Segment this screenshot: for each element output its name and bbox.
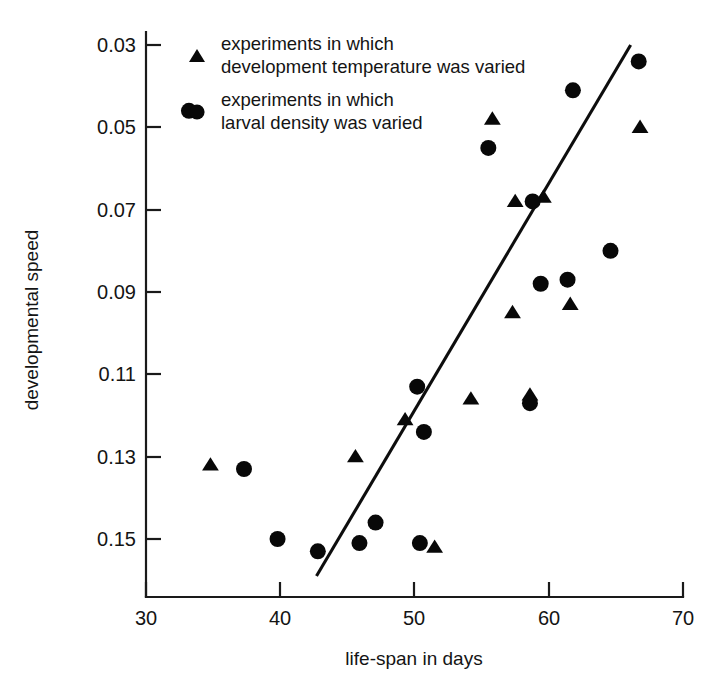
data-point-triangle [632,120,649,133]
y-tick-label: 0.11 [99,363,136,385]
series-temperature [202,111,648,552]
triangle-marker-icon [189,49,205,62]
data-point-triangle [347,449,364,462]
data-point-circle [412,535,428,551]
legend-entry-temperature: experiments in which development tempera… [189,33,525,77]
data-point-circle [560,272,576,288]
data-point-circle [533,276,549,292]
x-tick-label: 60 [538,607,560,629]
data-point-circle [310,543,326,559]
y-tick-label: 0.03 [97,34,136,56]
data-point-triangle [462,391,479,404]
legend-label-line1: experiments in which [221,89,394,110]
legend-label-line1: experiments in which [221,33,394,54]
data-point-circle [416,424,432,440]
y-tick-label: 0.15 [97,528,136,550]
data-point-circle [525,193,541,209]
x-axis-ticks [146,582,683,597]
data-point-triangle [484,111,501,124]
data-point-circle [368,515,384,531]
x-tick-label: 40 [269,607,291,629]
data-point-circle [565,82,581,98]
data-point-triangle [562,297,579,310]
data-point-triangle [507,194,524,207]
data-point-circle [236,461,252,477]
y-tick-label: 0.05 [97,116,136,138]
circle-marker-icon [189,104,204,119]
chart-canvas: 0.03 0.05 0.07 0.09 0.11 0.13 0.15 30 40… [0,0,719,687]
data-point-triangle [202,457,219,470]
legend-entry-density: experiments in which larval density was … [189,89,422,133]
y-tick-label: 0.07 [97,199,136,221]
legend-label-line2: larval density was varied [221,112,423,133]
y-axis-ticks [146,45,161,539]
data-point-circle [270,531,286,547]
x-tick-label: 50 [403,607,425,629]
data-point-triangle [504,305,521,318]
x-axis-title: life-span in days [345,648,482,669]
data-point-circle [409,379,425,395]
x-tick-label: 30 [135,607,157,629]
x-tick-label: 70 [672,607,694,629]
data-point-circle [522,395,538,411]
y-tick-label: 0.09 [97,281,136,303]
legend-label-line2: development temperature was varied [221,56,525,77]
chart-legend: experiments in which development tempera… [189,33,525,133]
data-point-circle [603,243,619,259]
scatter-plot-figure: 0.03 0.05 0.07 0.09 0.11 0.13 0.15 30 40… [0,0,719,687]
y-axis-tick-labels: 0.03 0.05 0.07 0.09 0.11 0.13 0.15 [97,34,136,550]
data-point-circle [631,53,647,69]
data-point-circle [480,140,496,156]
y-tick-label: 0.13 [97,446,136,468]
y-axis-title: developmental speed [21,230,42,411]
x-axis-tick-labels: 30 40 50 60 70 [135,607,694,629]
data-point-circle [351,535,367,551]
data-point-triangle [426,540,443,553]
